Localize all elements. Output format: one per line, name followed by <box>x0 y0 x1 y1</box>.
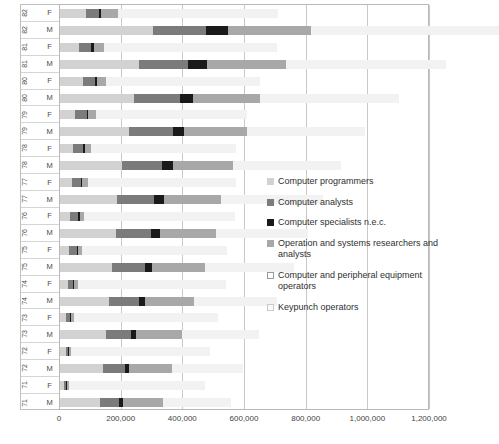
category-axis-row: 71M <box>21 394 60 411</box>
bar-stack <box>60 398 231 407</box>
bar-segment <box>73 144 83 153</box>
category-year-label: 75 <box>21 263 39 271</box>
legend-item-label: Keypunch operators <box>278 302 359 314</box>
bar-segment <box>162 161 173 170</box>
bar-segment <box>163 398 231 407</box>
bar-stack <box>60 297 277 306</box>
category-axis-row: 78M <box>21 157 60 174</box>
bar-stack <box>60 178 236 187</box>
legend-item[interactable]: Computer specialists n.e.c. <box>267 217 442 229</box>
legend-swatch-icon <box>267 240 274 247</box>
category-year-label: 73 <box>21 330 39 338</box>
bar-segment <box>233 161 341 170</box>
x-axis-tick-label: 200,000 <box>106 414 135 423</box>
legend-item-label: Computer analysts <box>278 197 353 209</box>
legend-item[interactable]: Computer programmers <box>267 176 442 188</box>
category-sex-label: M <box>39 228 60 237</box>
category-axis-row: 79F <box>21 107 60 124</box>
bar-segment <box>173 127 185 136</box>
bar-stack <box>60 280 226 289</box>
category-year-label: 72 <box>21 364 39 372</box>
bar-segment <box>83 77 95 86</box>
category-year-label: 79 <box>21 111 39 119</box>
bar-segment <box>79 43 92 52</box>
bar-segment <box>173 161 233 170</box>
bar-segment <box>154 195 164 204</box>
category-sex-label: F <box>39 313 60 322</box>
bar-segment <box>60 330 106 339</box>
bar-segment <box>60 297 109 306</box>
category-sex-label: F <box>39 110 60 119</box>
category-year-label: 72 <box>21 347 39 355</box>
bar-stack <box>60 9 278 18</box>
category-axis-row: 81F <box>21 39 60 56</box>
category-sex-label: M <box>39 161 60 170</box>
category-year-label: 71 <box>21 381 39 389</box>
bar-segment <box>152 263 204 272</box>
bar-segment <box>151 229 160 238</box>
legend-item[interactable]: Operation and systems researchers and an… <box>267 238 442 261</box>
bar-segment <box>136 330 182 339</box>
category-sex-label: F <box>39 144 60 153</box>
bar-segment <box>194 297 277 306</box>
category-axis-row: 75F <box>21 242 60 259</box>
bar-segment <box>123 398 163 407</box>
bar-stack <box>60 94 399 103</box>
category-year-label: 74 <box>21 297 39 305</box>
bar-segment <box>134 94 180 103</box>
category-sex-label: M <box>39 195 60 204</box>
category-axis-row: 72M <box>21 360 60 377</box>
bar-segment <box>116 229 151 238</box>
bar-segment <box>60 110 75 119</box>
bar-segment <box>60 229 116 238</box>
category-sex-label: F <box>39 76 60 85</box>
category-year-label: 78 <box>21 144 39 152</box>
category-axis-row: 72F <box>21 343 60 360</box>
bar-stack <box>60 364 243 373</box>
category-axis-row: 77M <box>21 191 60 208</box>
category-axis-row: 78F <box>21 140 60 157</box>
bar-segment <box>109 297 138 306</box>
category-year-label: 77 <box>21 178 39 186</box>
category-sex-label: F <box>39 178 60 187</box>
legend-item[interactable]: Computer and peripheral equipment operat… <box>267 270 442 293</box>
category-year-label: 75 <box>21 246 39 254</box>
bar-segment <box>180 94 192 103</box>
bar-stack <box>60 330 259 339</box>
bar-segment <box>88 110 96 119</box>
category-axis-row: 71F <box>21 377 60 394</box>
legend-item[interactable]: Keypunch operators <box>267 302 442 314</box>
bar-segment <box>91 144 236 153</box>
category-sex-label: F <box>39 347 60 356</box>
category-sex-label: M <box>39 59 60 68</box>
category-sex-label: M <box>39 398 60 407</box>
bar-segment <box>139 60 188 69</box>
category-year-label: 76 <box>21 229 39 237</box>
category-axis-row: 80M <box>21 90 60 107</box>
bar-segment <box>129 364 172 373</box>
bar-segment <box>60 212 70 221</box>
category-axis-row: 73M <box>21 326 60 343</box>
bar-segment <box>97 77 106 86</box>
bar-segment <box>60 77 83 86</box>
bar-segment <box>82 246 227 255</box>
bar-stack <box>60 313 218 322</box>
bar-segment <box>60 263 112 272</box>
bar-segment <box>60 178 72 187</box>
bar-stack <box>60 161 341 170</box>
bar-segment <box>60 398 100 407</box>
legend-swatch-icon <box>267 272 274 279</box>
bar-segment <box>172 364 243 373</box>
category-sex-label: F <box>39 381 60 390</box>
category-axis-row: 82M <box>21 22 60 39</box>
category-axis-row: 81M <box>21 56 60 73</box>
bar-segment <box>117 195 154 204</box>
legend-swatch-icon <box>267 178 274 185</box>
category-axis: 82F82M81F81M80F80M79F79M78F78M77F77M76F7… <box>20 4 59 410</box>
category-year-label: 77 <box>21 195 39 203</box>
legend-swatch-icon <box>267 304 274 311</box>
legend-item[interactable]: Computer analysts <box>267 197 442 209</box>
category-axis-row: 74F <box>21 276 60 293</box>
category-sex-label: M <box>39 25 60 34</box>
bar-segment <box>69 381 205 390</box>
